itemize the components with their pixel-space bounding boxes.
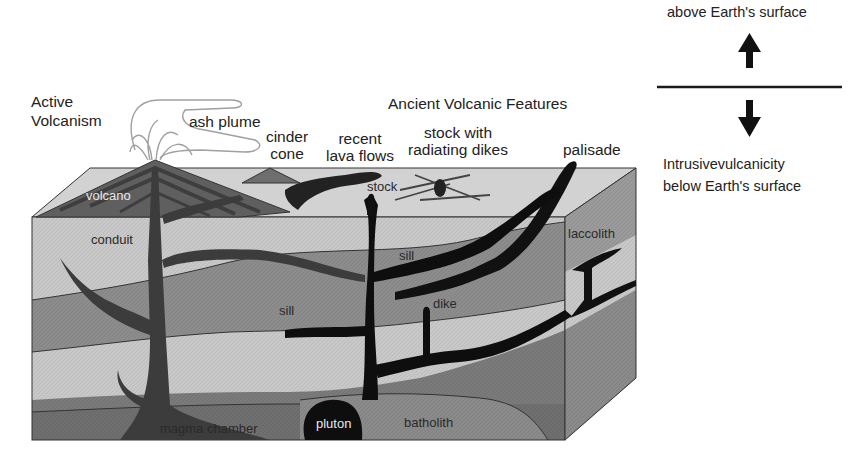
label-ash-plume: ash plume [189,113,261,130]
label-pluton: pluton [316,417,351,431]
label-stock-with-radiating-dikes: stock with radiating dikes [398,124,518,158]
arrow-down-icon [738,100,761,137]
label-batholith: batholith [404,416,453,430]
label-magma-chamber: magma chamber [160,422,258,436]
label-sill-upper: sill [399,249,414,263]
label-sill-lower: sill [279,304,294,318]
label-palisade: palisade [563,141,621,158]
label-recent-lava-flows: recent lava flows [318,130,402,164]
label-stock: stock [367,180,397,194]
legend-below-line1: Intrusivevulcanicity [663,154,785,174]
volcanic-features-diagram: Active Volcanism Ancient Volcanic Featur… [0,0,856,465]
arrow-up-icon [738,33,761,68]
ash-plume [130,100,260,160]
label-laccolith: laccolith [568,227,615,241]
label-volcano: volcano [86,189,131,203]
label-cinder-cone: cinder cone [262,128,312,162]
label-active: Active Volcanism [31,93,102,129]
legend-below-line2: below Earth's surface [663,176,801,196]
legend-graphic [657,33,842,137]
legend-above-label: above Earth's surface [667,2,807,22]
label-ancient-volcanic-features: Ancient Volcanic Features [388,95,567,112]
label-conduit: conduit [91,233,133,247]
label-dike: dike [433,297,457,311]
